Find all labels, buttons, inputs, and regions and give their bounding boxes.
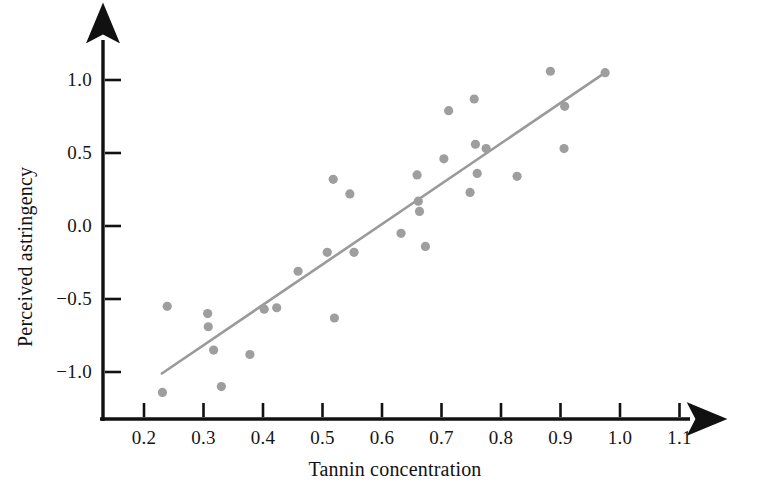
- data-point: [345, 189, 354, 198]
- data-point: [473, 169, 482, 178]
- y-tick-label: 0.5: [42, 142, 92, 164]
- x-tick-label: 0.7: [429, 427, 454, 449]
- data-point: [413, 170, 422, 179]
- data-point: [415, 207, 424, 216]
- data-point: [559, 144, 568, 153]
- x-tick-label: 0.9: [548, 427, 573, 449]
- data-point: [470, 94, 479, 103]
- data-point: [349, 248, 358, 257]
- y-axis-ticks: [105, 80, 121, 372]
- data-point: [482, 144, 491, 153]
- regression-line: [162, 73, 605, 374]
- data-point: [396, 229, 405, 238]
- data-point: [414, 197, 423, 206]
- data-point: [444, 106, 453, 115]
- fit-line: [162, 73, 605, 374]
- scatter-plot-figure: 0.20.30.40.50.60.70.80.91.01.11.00.50.0−…: [0, 0, 762, 491]
- axes: [100, 40, 690, 421]
- x-axis-ticks: [144, 403, 680, 417]
- x-tick-label: 0.8: [489, 427, 514, 449]
- x-tick-label: 0.5: [310, 427, 335, 449]
- data-point: [329, 175, 338, 184]
- data-point: [209, 346, 218, 355]
- x-tick-label: 0.4: [251, 427, 276, 449]
- data-point: [465, 188, 474, 197]
- data-point: [560, 102, 569, 111]
- x-tick-label: 1.1: [667, 427, 692, 449]
- x-tick-label: 0.6: [370, 427, 395, 449]
- data-point: [601, 68, 610, 77]
- data-point: [546, 67, 555, 76]
- data-point: [260, 305, 269, 314]
- data-point: [203, 309, 212, 318]
- y-tick-label: 0.0: [42, 215, 92, 237]
- data-point: [217, 382, 226, 391]
- plot-canvas: [0, 0, 762, 491]
- data-point: [471, 140, 480, 149]
- data-point: [294, 267, 303, 276]
- y-tick-label: −1.0: [42, 361, 92, 383]
- x-tick-label: 1.0: [608, 427, 633, 449]
- data-point: [158, 388, 167, 397]
- y-axis-title: Perceived astringency: [14, 167, 37, 347]
- data-point: [439, 154, 448, 163]
- y-tick-label: 1.0: [42, 69, 92, 91]
- data-point: [330, 313, 339, 322]
- data-point: [163, 302, 172, 311]
- data-point: [245, 350, 254, 359]
- data-point: [272, 303, 281, 312]
- data-point: [421, 242, 430, 251]
- x-tick-label: 0.2: [132, 427, 157, 449]
- y-tick-label: −0.5: [42, 288, 92, 310]
- x-axis-title: Tannin concentration: [308, 458, 481, 481]
- data-point: [204, 322, 213, 331]
- x-tick-label: 0.3: [191, 427, 216, 449]
- data-point: [323, 248, 332, 257]
- data-point: [512, 172, 521, 181]
